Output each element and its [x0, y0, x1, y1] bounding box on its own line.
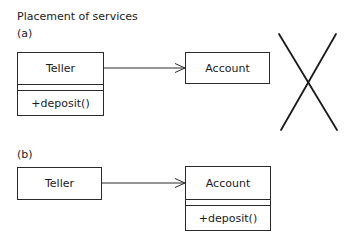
- cross-out-icon: [279, 34, 337, 130]
- panel-b-association-arrow: [102, 179, 185, 188]
- panel-a-association-arrow: [104, 64, 185, 73]
- connector-layer: [0, 0, 353, 239]
